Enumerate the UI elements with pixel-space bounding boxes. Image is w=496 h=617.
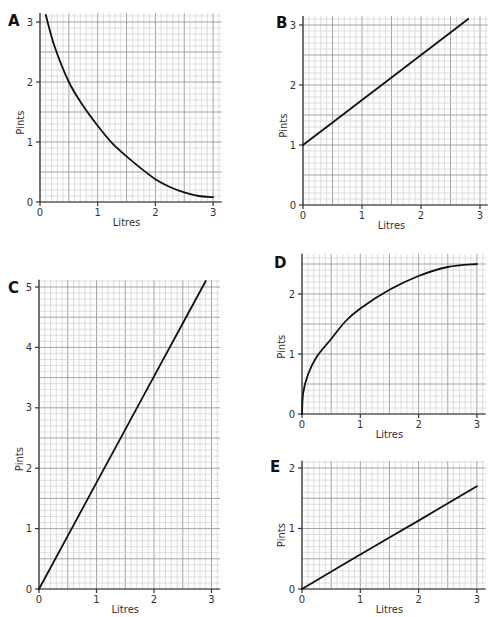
y-tick-label: 2 — [27, 77, 33, 88]
y-tick-label: 2 — [26, 463, 32, 474]
y-tick-label: 0 — [289, 409, 295, 420]
x-tick-label: 0 — [300, 210, 306, 221]
x-tick-label: 2 — [415, 594, 421, 605]
y-tick-label: 4 — [26, 342, 32, 353]
grid — [302, 461, 486, 589]
x-tick-label: 1 — [357, 594, 363, 605]
y-tick-label: 2 — [289, 463, 295, 474]
x-axis-title: Litres — [111, 604, 139, 615]
x-tick-label: 2 — [152, 207, 158, 218]
y-tick-label: 2 — [290, 80, 296, 91]
grid — [302, 254, 486, 414]
y-axis-title: Pints — [278, 114, 289, 138]
x-tick-label: 0 — [299, 594, 305, 605]
y-tick-label: 2 — [289, 289, 295, 300]
y-tick-label: 0 — [289, 584, 295, 595]
x-tick-label: 3 — [474, 419, 480, 430]
chart-c: 0123012345LitresPintsC — [8, 279, 220, 615]
figure-canvas: 01230123LitresPintsA01230123LitresPintsB… — [0, 0, 496, 617]
data-line — [39, 281, 206, 589]
chart-a: 01230123LitresPintsA — [8, 12, 222, 228]
x-tick-label: 3 — [208, 594, 214, 605]
y-tick-label: 1 — [289, 349, 295, 360]
x-axis-title: Litres — [113, 217, 141, 228]
y-tick-label: 0 — [27, 197, 33, 208]
y-tick-label: 3 — [290, 20, 296, 31]
x-tick-label: 2 — [418, 210, 424, 221]
panel-letter: A — [8, 12, 20, 30]
grid — [303, 16, 488, 205]
y-axis-title: Pints — [276, 335, 287, 359]
chart-e: 0123012LitresPintsE — [270, 458, 486, 615]
panel-letter: E — [270, 458, 280, 476]
y-tick-label: 1 — [26, 523, 32, 534]
x-axis-title: Litres — [376, 429, 404, 440]
y-tick-label: 1 — [27, 137, 33, 148]
panel-letter: C — [8, 279, 19, 297]
y-tick-label: 0 — [290, 200, 296, 211]
x-tick-label: 1 — [359, 210, 365, 221]
y-axis-title: Pints — [15, 111, 26, 135]
x-axis-title: Litres — [376, 604, 404, 615]
x-tick-label: 0 — [37, 207, 43, 218]
panel-letter: B — [276, 14, 287, 32]
y-tick-label: 3 — [26, 402, 32, 413]
y-axis-title: Pints — [14, 447, 25, 471]
x-tick-label: 0 — [299, 419, 305, 430]
x-tick-label: 2 — [151, 594, 157, 605]
y-tick-label: 0 — [26, 584, 32, 595]
y-axis-title: Pints — [276, 523, 287, 547]
y-tick-label: 1 — [290, 140, 296, 151]
x-tick-label: 3 — [474, 594, 480, 605]
x-tick-label: 1 — [95, 207, 101, 218]
x-tick-label: 3 — [477, 210, 483, 221]
x-axis-title: Litres — [378, 220, 406, 231]
x-tick-label: 2 — [415, 419, 421, 430]
x-tick-label: 1 — [357, 419, 363, 430]
y-tick-label: 5 — [26, 282, 32, 293]
x-tick-label: 0 — [36, 594, 42, 605]
grid — [39, 280, 220, 589]
y-tick-label: 3 — [27, 17, 33, 28]
x-tick-label: 3 — [210, 207, 216, 218]
y-tick-label: 1 — [289, 523, 295, 534]
chart-b: 01230123LitresPintsB — [276, 14, 488, 231]
panel-letter: D — [274, 254, 286, 272]
chart-d: 0123012LitresPintsD — [274, 254, 486, 440]
x-tick-label: 1 — [93, 594, 99, 605]
grid — [40, 13, 222, 202]
